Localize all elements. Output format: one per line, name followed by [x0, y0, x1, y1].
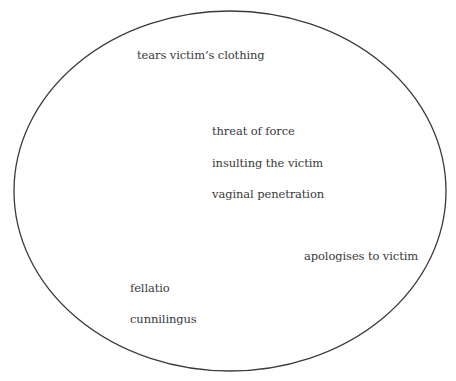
label-cunnilingus: cunnilingus — [130, 312, 197, 326]
label-vaginal-penetration: vaginal penetration — [212, 187, 324, 201]
label-fellatio: fellatio — [130, 281, 170, 295]
label-tears-victims-clothing: tears victim’s clothing — [137, 48, 265, 62]
label-apologises-to-victim: apologises to victim — [304, 249, 418, 263]
label-threat-of-force: threat of force — [212, 124, 295, 138]
label-insulting-the-victim: insulting the victim — [212, 156, 323, 170]
